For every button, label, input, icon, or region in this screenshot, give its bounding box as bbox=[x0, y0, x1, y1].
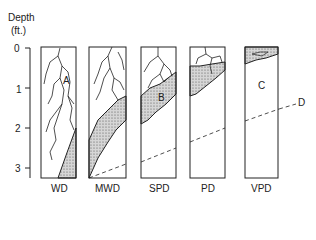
region-label-b: B bbox=[158, 92, 165, 103]
column-label-pd: PD bbox=[201, 183, 215, 194]
column-label-mwd: MWD bbox=[95, 183, 120, 194]
region-label-a: A bbox=[63, 75, 70, 86]
column-wd bbox=[41, 47, 76, 178]
column-pd bbox=[190, 47, 225, 178]
region-label-c: C bbox=[258, 80, 265, 91]
column-label-wd: WD bbox=[51, 183, 68, 194]
column-mwd bbox=[89, 47, 126, 178]
depth-axis bbox=[25, 48, 30, 178]
column-vpd bbox=[245, 47, 296, 178]
line-label-d: D bbox=[298, 97, 305, 108]
column-label-spd: SPD bbox=[149, 183, 170, 194]
column-label-vpd: VPD bbox=[251, 183, 272, 194]
column-spd bbox=[141, 47, 176, 178]
